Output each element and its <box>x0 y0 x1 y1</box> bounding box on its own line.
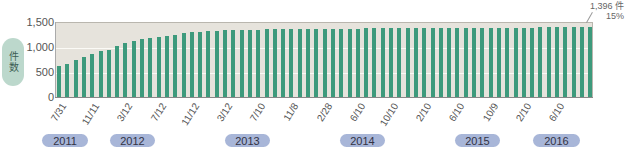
x-tick-label: 6/10 <box>342 101 367 132</box>
year-label-2011: 2011 <box>42 134 88 147</box>
bar <box>530 28 534 98</box>
bar <box>505 28 509 97</box>
bar <box>348 29 352 98</box>
bar <box>206 31 210 97</box>
bar <box>339 29 343 97</box>
bar <box>223 30 227 97</box>
bar <box>406 28 410 97</box>
bar <box>198 32 202 98</box>
x-tick-label: 6/10 <box>441 101 466 132</box>
bar <box>132 41 136 97</box>
bar <box>522 28 526 97</box>
year-label-2014: 2014 <box>340 134 385 147</box>
bar <box>99 51 103 97</box>
x-tick-label: 3/12 <box>209 101 234 132</box>
bar <box>480 28 484 97</box>
bar <box>140 39 144 97</box>
bar <box>273 29 277 97</box>
x-tick-label: 10/9 <box>475 101 500 132</box>
bar <box>215 31 219 98</box>
y-axis-label: 件数 <box>2 38 24 86</box>
bar <box>389 28 393 97</box>
bar <box>256 30 260 98</box>
bar <box>381 28 385 97</box>
bar <box>447 28 451 97</box>
bar <box>455 28 459 97</box>
bar <box>190 32 194 97</box>
y-tick: 0 <box>48 91 54 103</box>
x-tick-label: 2/10 <box>508 101 533 132</box>
final-value-annotation: 1,396 件 15% <box>590 1 624 21</box>
bar <box>538 27 542 97</box>
annotation-percent: 15% <box>590 11 624 21</box>
x-tick-label: 3/12 <box>109 101 134 132</box>
bar <box>281 29 285 97</box>
bar <box>580 27 584 97</box>
bar <box>57 66 61 97</box>
bar <box>65 64 69 97</box>
x-tick-label: 7/12 <box>143 101 168 132</box>
x-tick-label: 2/10 <box>408 101 433 132</box>
y-tick: 1,000 <box>26 41 54 53</box>
x-tick-label: 11/12 <box>176 101 201 132</box>
y-tick: 1,500 <box>26 16 54 28</box>
bar <box>265 29 269 97</box>
bar <box>289 29 293 97</box>
y-axis-line <box>55 22 56 98</box>
bar <box>372 28 376 97</box>
bar <box>298 29 302 97</box>
bar <box>248 30 252 98</box>
x-tick-label: 11/8 <box>275 101 300 132</box>
bar <box>240 30 244 97</box>
bar <box>489 28 493 97</box>
year-label-2015: 2015 <box>455 134 500 147</box>
bar <box>572 27 576 97</box>
bar <box>90 54 94 97</box>
bar <box>397 28 401 97</box>
bar <box>182 33 186 97</box>
y-axis-ticks: 0 500 1,000 1,500 <box>24 0 54 110</box>
bar <box>464 28 468 97</box>
year-label-2012: 2012 <box>110 134 155 147</box>
x-tick-label: 2/28 <box>309 101 334 132</box>
x-tick-label: 7/10 <box>242 101 267 132</box>
y-tick: 500 <box>36 66 54 78</box>
bar <box>356 29 360 98</box>
bar <box>323 29 327 97</box>
plot-area <box>55 22 593 97</box>
x-tick-label: 10/10 <box>375 101 400 132</box>
bar <box>431 28 435 97</box>
bar <box>123 43 127 97</box>
bar <box>555 27 559 97</box>
annotation-value: 1,396 件 <box>590 1 624 11</box>
bar <box>439 28 443 97</box>
bar <box>306 29 310 97</box>
bar <box>588 27 592 97</box>
bar <box>414 28 418 97</box>
bar <box>107 50 111 97</box>
x-tick-label: 11/11 <box>76 101 101 132</box>
bar <box>82 57 86 97</box>
bar <box>422 28 426 97</box>
bar <box>165 36 169 98</box>
bar <box>314 29 318 97</box>
bar <box>547 27 551 97</box>
bar <box>514 28 518 97</box>
bar <box>331 29 335 97</box>
bar <box>173 35 177 98</box>
bar <box>148 38 152 98</box>
year-label-2013: 2013 <box>225 134 270 147</box>
bar <box>74 60 78 97</box>
bar <box>115 46 119 97</box>
bar <box>157 37 161 98</box>
bar <box>563 27 567 97</box>
year-label-2016: 2016 <box>533 134 580 147</box>
bar <box>497 28 501 97</box>
bar <box>231 30 235 97</box>
bar <box>364 28 368 97</box>
x-axis-line <box>55 97 593 98</box>
x-tick-label: 6/10 <box>541 101 566 132</box>
bar <box>472 28 476 97</box>
